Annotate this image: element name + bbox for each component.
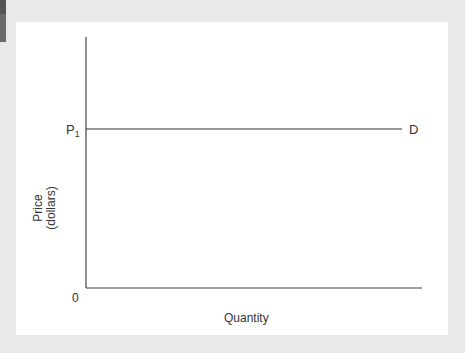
demand-chart: P1 D 0 Quantity Price (dollars): [0, 0, 465, 353]
svg-text:(dollars): (dollars): [44, 186, 58, 229]
svg-text:Price: Price: [31, 194, 45, 222]
y-axis-label: Price (dollars): [31, 186, 58, 229]
p1-label: P1: [66, 122, 80, 139]
x-axis-label: Quantity: [224, 311, 269, 325]
origin-label: 0: [72, 291, 79, 305]
demand-label: D: [409, 122, 418, 137]
